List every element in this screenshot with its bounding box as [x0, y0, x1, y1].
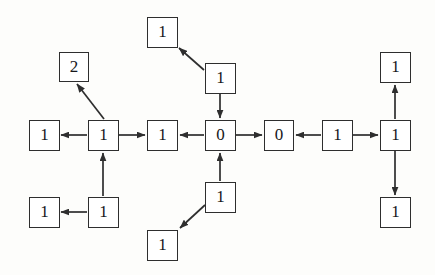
node-label: 1 — [158, 126, 167, 143]
node-left-outer[interactable]: 1 — [29, 120, 60, 151]
edge-bot-mid-to-bot-lower — [180, 205, 205, 228]
node-right-mid[interactable]: 1 — [322, 120, 353, 151]
node-label: 1 — [99, 203, 108, 220]
node-top-upper[interactable]: 1 — [147, 17, 178, 48]
node-label: 1 — [99, 126, 108, 143]
node-right-top[interactable]: 1 — [380, 52, 411, 83]
node-label: 1 — [391, 58, 400, 75]
node-two[interactable]: 2 — [59, 52, 89, 82]
node-right-hub[interactable]: 1 — [380, 120, 411, 151]
edge-top-mid-to-top-upper — [179, 48, 204, 70]
node-zero-b[interactable]: 0 — [264, 120, 294, 151]
node-label: 1 — [333, 126, 342, 143]
node-top-mid[interactable]: 1 — [205, 63, 236, 94]
node-label: 1 — [391, 126, 400, 143]
node-label: 1 — [216, 69, 225, 86]
diagram-canvas: 1 1 2 1 1 1 0 0 1 1 1 1 1 1 1 1 — [0, 0, 435, 275]
node-bot-lower[interactable]: 1 — [147, 230, 178, 261]
node-zero-a[interactable]: 0 — [205, 120, 236, 151]
node-label: 1 — [216, 188, 225, 205]
node-label: 1 — [391, 203, 400, 220]
node-left-low-hub[interactable]: 1 — [88, 197, 119, 228]
node-bot-mid[interactable]: 1 — [205, 182, 236, 213]
node-label: 1 — [158, 23, 167, 40]
node-label: 0 — [216, 126, 225, 143]
node-label: 1 — [40, 126, 49, 143]
node-label: 1 — [40, 203, 49, 220]
node-left-hub[interactable]: 1 — [88, 120, 119, 151]
node-right-bottom[interactable]: 1 — [380, 197, 411, 228]
node-mid-left[interactable]: 1 — [147, 120, 178, 151]
node-label: 0 — [275, 126, 284, 143]
node-label: 1 — [158, 236, 167, 253]
node-left-low-out[interactable]: 1 — [29, 197, 60, 228]
node-label: 2 — [70, 58, 79, 75]
edge-left-hub-to-two — [77, 84, 104, 119]
